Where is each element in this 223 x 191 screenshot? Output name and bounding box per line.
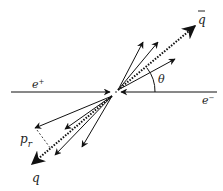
antiquark-label: q xyxy=(198,13,206,27)
quark-label: q xyxy=(32,171,40,185)
transverse-momentum-line xyxy=(37,130,51,149)
antiquark-axis-arrow xyxy=(118,26,195,90)
jet-track-arrow xyxy=(118,42,158,90)
quark-axis-arrow xyxy=(32,96,112,164)
theta-label: θ xyxy=(158,73,165,86)
interaction-vertex xyxy=(115,91,117,93)
positron-label: e+ xyxy=(32,78,45,91)
jet-track-arrow xyxy=(82,96,112,147)
electron-label: e− xyxy=(202,94,215,107)
jet-track-arrow xyxy=(55,96,112,155)
transverse-momentum-label: pr xyxy=(20,132,33,149)
jet-diagram: e+ e− q θ q pr xyxy=(0,0,223,191)
